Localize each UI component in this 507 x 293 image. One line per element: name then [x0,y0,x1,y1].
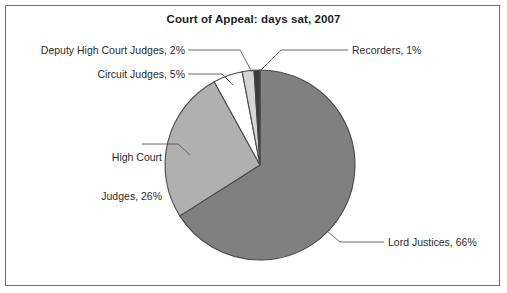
leader-line-lord-justices [327,231,384,242]
leader-line-deputy-high-court-judges [188,50,252,72]
pie-label-high-court-judges-line1: High Court [101,151,162,164]
chart-container: Court of Appeal: days sat, 2007 Deputy H… [0,0,507,293]
pie-label-deputy-high-court-judges: Deputy High Court Judges, 2% [41,44,185,57]
leader-line-recorders [259,50,348,72]
pie-label-recorders: Recorders, 1% [352,44,421,57]
pie-label-circuit-judges: Circuit Judges, 5% [97,68,185,81]
pie-label-lord-justices: Lord Justices, 66% [388,236,477,249]
pie-label-high-court-judges-line2: Judges, 26% [101,190,162,203]
pie-label-high-court-judges: High Court Judges, 26% [101,125,162,229]
